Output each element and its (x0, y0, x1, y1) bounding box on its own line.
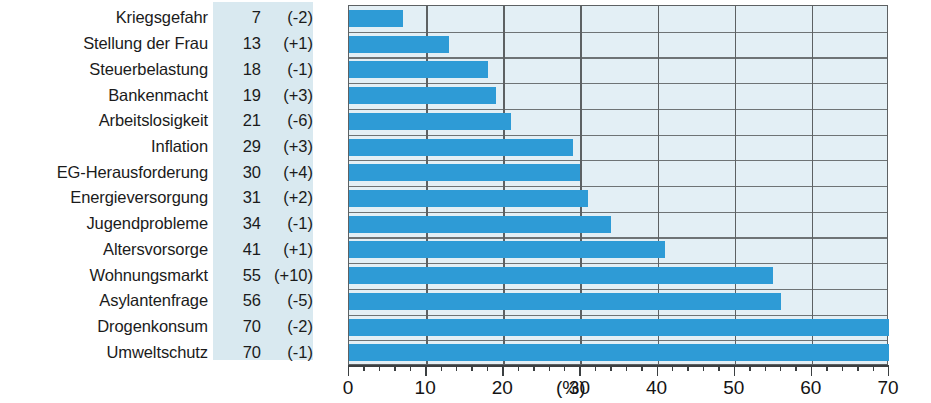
tick-minor (795, 365, 796, 371)
category-delta: (-1) (261, 343, 317, 362)
tick-minor (857, 365, 858, 371)
tick-minor (687, 365, 688, 371)
category-label: Kriegsgefahr (0, 8, 213, 27)
category-label: Altersvorsorge (0, 240, 213, 259)
category-label: Asylantenfrage (0, 291, 213, 310)
bar (349, 241, 665, 258)
category-value: 13 (213, 34, 261, 53)
category-label: EG-Herausforderung (0, 163, 213, 182)
bar (349, 164, 580, 181)
label-row: Inflation29(+3) (0, 134, 313, 160)
x-tick-label: 60 (800, 377, 821, 399)
category-value: 55 (213, 266, 261, 285)
label-row: Altersvorsorge41(+1) (0, 236, 313, 262)
bar-row (349, 186, 887, 212)
bar-row (349, 315, 887, 341)
tick-minor (533, 365, 534, 371)
category-value: 7 (213, 8, 261, 27)
category-label: Drogenkonsum (0, 317, 213, 336)
x-axis: 010203040506070 (348, 365, 888, 403)
label-row: Bankenmacht19(+3) (0, 82, 313, 108)
category-delta: (-1) (261, 60, 317, 79)
bar-row (349, 83, 887, 109)
category-value: 56 (213, 291, 261, 310)
label-row: Energieversorgung31(+2) (0, 185, 313, 211)
tick-minor (672, 365, 673, 371)
tick-minor (595, 365, 596, 371)
tick-major (657, 365, 658, 376)
category-value: 18 (213, 60, 261, 79)
bar-row (349, 109, 887, 135)
category-label: Wohnungsmarkt (0, 266, 213, 285)
category-delta: (-1) (261, 214, 317, 233)
category-label: Energieversorgung (0, 188, 213, 207)
bar-row (349, 263, 887, 289)
category-value: 19 (213, 86, 261, 105)
label-row: Stellung der Frau13(+1) (0, 31, 313, 57)
label-row: Asylantenfrage56(-5) (0, 288, 313, 314)
tick-minor (610, 365, 611, 371)
bar (349, 113, 511, 130)
bar-row (349, 340, 887, 366)
category-value: 34 (213, 214, 261, 233)
tick-minor (487, 365, 488, 371)
tick-major (734, 365, 735, 376)
category-label: Stellung der Frau (0, 34, 213, 53)
chart-plot-area (348, 5, 888, 365)
bar (349, 190, 588, 207)
x-axis-line (348, 365, 888, 367)
category-delta: (+2) (261, 188, 317, 207)
category-value: 41 (213, 240, 261, 259)
bar (349, 10, 403, 27)
bar-row (349, 57, 887, 83)
label-row: Arbeitslosigkeit21(-6) (0, 108, 313, 134)
category-label: Umweltschutz (0, 343, 213, 362)
tick-major (502, 365, 503, 376)
tick-minor (780, 365, 781, 371)
bar (349, 36, 449, 53)
tick-minor (471, 365, 472, 371)
category-delta: (+3) (261, 137, 317, 156)
tick-minor (718, 365, 719, 371)
tick-minor (826, 365, 827, 371)
bar (349, 344, 889, 361)
category-delta: (+4) (261, 163, 317, 182)
category-value: 70 (213, 343, 261, 362)
bar (349, 61, 488, 78)
tick-minor (410, 365, 411, 371)
tick-major (579, 365, 580, 376)
category-delta: (+3) (261, 86, 317, 105)
tick-minor (641, 365, 642, 371)
category-delta: (-5) (261, 291, 317, 310)
label-row: Steuerbelastung18(-1) (0, 56, 313, 82)
tick-minor (394, 365, 395, 371)
tick-minor (564, 365, 565, 371)
category-delta: (+10) (261, 266, 317, 285)
bar (349, 319, 889, 336)
category-label-column: Kriegsgefahr7(-2)Stellung der Frau13(+1)… (0, 0, 330, 403)
tick-minor (842, 365, 843, 371)
category-delta: (+1) (261, 240, 317, 259)
bar-row (349, 237, 887, 263)
category-delta: (+1) (261, 34, 317, 53)
tick-minor (765, 365, 766, 371)
category-label: Jugendprobleme (0, 214, 213, 233)
bar-row (349, 289, 887, 315)
x-tick-label: 70 (877, 377, 898, 399)
tick-major (425, 365, 426, 376)
category-delta: (-2) (261, 8, 317, 27)
bar-row (349, 160, 887, 186)
bar-row (349, 135, 887, 161)
bar-row (349, 212, 887, 238)
tick-minor (441, 365, 442, 371)
bar (349, 139, 573, 156)
bar (349, 216, 611, 233)
category-value: 31 (213, 188, 261, 207)
bar (349, 293, 781, 310)
tick-major (811, 365, 812, 376)
label-row: EG-Herausforderung30(+4) (0, 159, 313, 185)
bar (349, 267, 773, 284)
tick-minor (456, 365, 457, 371)
tick-minor (626, 365, 627, 371)
category-label: Steuerbelastung (0, 60, 213, 79)
